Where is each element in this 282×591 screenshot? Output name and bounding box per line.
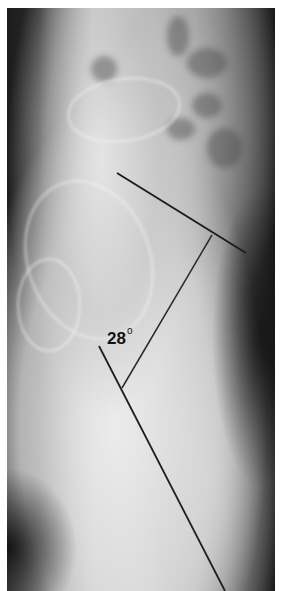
degree-symbol: o [127,325,133,336]
sacral-endplate-line [117,173,246,253]
perpendicular-line [122,235,212,388]
femoral-axis-line [99,346,225,591]
angle-value: 28 [107,329,126,348]
angle-measurement-label: 28o [107,328,132,349]
measurement-overlay [0,0,282,591]
